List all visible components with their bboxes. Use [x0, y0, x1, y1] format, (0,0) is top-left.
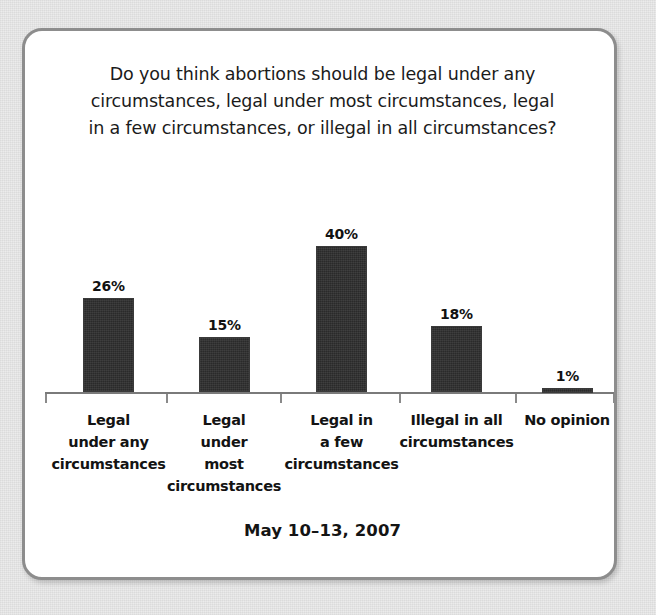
cat-1-line-2: most	[162, 453, 286, 475]
chart-card: Do you think abortions should be legal u…	[22, 28, 617, 580]
x-axis-label-no-opinion: No opinion	[517, 409, 617, 431]
cat-4-line-0: No opinion	[517, 409, 617, 431]
x-axis-tick-0	[45, 394, 47, 403]
x-axis-tick-2	[280, 394, 282, 403]
x-axis-label-legal-under-most-circumstances: Legal under most circumstances	[162, 409, 286, 497]
bar-value-0: 26%	[73, 278, 144, 294]
x-axis-label-legal-in-a-few-circumstances: Legal in a few circumstances	[276, 409, 407, 475]
cat-2-line-0: Legal in	[276, 409, 407, 431]
plot-area: 26% 15% 40% 18% 1% Legal under any circu…	[25, 31, 617, 580]
x-axis-label-illegal-in-all-circumstances: Illegal in all circumstances	[391, 409, 522, 453]
bar-legal-in-a-few-circumstances	[316, 246, 367, 392]
bar-value-1: 15%	[189, 317, 260, 333]
bar-value-2: 40%	[306, 226, 377, 242]
x-axis-tick-4	[515, 394, 517, 403]
cat-1-line-0: Legal	[162, 409, 286, 431]
chart-footer-date: May 10–13, 2007	[53, 521, 592, 540]
cat-0-line-1: under any	[43, 431, 174, 453]
bar-value-3: 18%	[421, 306, 492, 322]
cat-2-line-1: a few	[276, 431, 407, 453]
cat-0-line-0: Legal	[43, 409, 174, 431]
x-axis-tick-3	[399, 394, 401, 403]
cat-1-line-3: circumstances	[162, 475, 286, 497]
x-axis-label-legal-under-any-circumstances: Legal under any circumstances	[43, 409, 174, 475]
x-axis-tick-1	[166, 394, 168, 403]
bar-value-4: 1%	[532, 368, 603, 384]
cat-0-line-2: circumstances	[43, 453, 174, 475]
cat-3-line-1: circumstances	[391, 431, 522, 453]
x-axis-tick-5	[613, 394, 615, 403]
bar-legal-under-any-circumstances	[83, 298, 134, 392]
cat-3-line-0: Illegal in all	[391, 409, 522, 431]
cat-2-line-2: circumstances	[276, 453, 407, 475]
bar-illegal-in-all-circumstances	[431, 326, 482, 392]
bar-no-opinion	[542, 388, 593, 393]
x-axis-line	[45, 392, 615, 394]
bar-legal-under-most-circumstances	[199, 337, 250, 392]
cat-1-line-1: under	[162, 431, 286, 453]
